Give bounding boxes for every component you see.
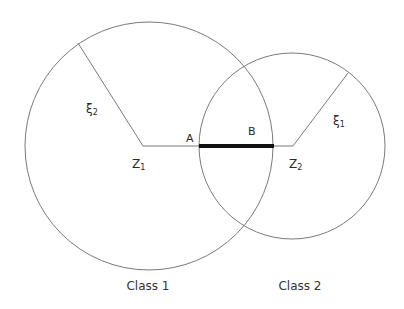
- center-label-z2: Z2: [289, 157, 302, 172]
- radius-label-class-2: ξ1: [333, 114, 345, 129]
- center-label-z1: Z1: [132, 157, 145, 172]
- class-1-radius-line: [78, 43, 143, 146]
- diagram-canvas: ξ2 Z1 A B Z2 ξ1 Class 1 Class 2: [0, 0, 404, 309]
- class-2-label: Class 2: [278, 279, 321, 293]
- class-2-radius-line: [293, 73, 348, 146]
- point-label-b: B: [248, 125, 256, 138]
- point-label-a: A: [186, 132, 194, 145]
- radius-label-class-1: ξ2: [86, 102, 98, 117]
- class-1-label: Class 1: [126, 279, 169, 293]
